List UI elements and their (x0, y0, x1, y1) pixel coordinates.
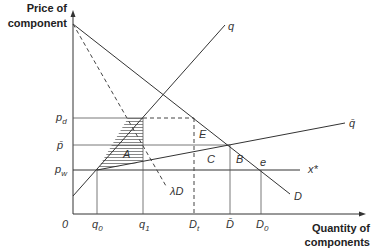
area-label-a: A (122, 148, 130, 160)
origin-label: 0 (62, 218, 69, 230)
tick-dbar: D̄ (226, 218, 234, 230)
area-label-c: C (207, 153, 215, 165)
y-axis-title-1: Price of (27, 2, 68, 14)
label-lambda-d: λD (169, 185, 183, 197)
point-label-e: e (260, 156, 266, 168)
x-axis-title-1: Quantity of (312, 222, 370, 234)
tariff-diagram: Price of component Quantity of component… (0, 0, 376, 252)
tick-pw: pw (54, 163, 68, 178)
label-qbar: q̄ (349, 117, 356, 129)
y-axis-title-2: component (8, 17, 68, 29)
tick-d0: D0 (256, 218, 269, 233)
x-axis-title-2: components (305, 236, 370, 248)
area-label-e: E (199, 128, 207, 140)
tick-pd: pd (55, 111, 67, 126)
area-label-b: B (236, 153, 243, 165)
x-axis-arrow-icon (359, 212, 366, 217)
tick-q1: q1 (139, 218, 150, 233)
label-q: q (228, 20, 235, 32)
label-d: D (294, 190, 302, 202)
y-axis-arrow-icon (71, 10, 76, 17)
tick-dt: Dt (189, 218, 200, 233)
label-xstar: x* (307, 163, 319, 175)
tick-q0: q0 (92, 218, 103, 233)
tick-pbar: p̄ (56, 139, 63, 151)
